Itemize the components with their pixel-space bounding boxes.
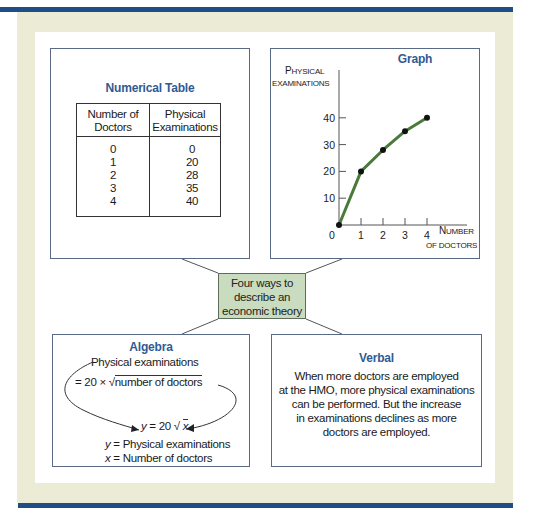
verbal-line: When more doctors are employed xyxy=(276,369,477,383)
verbal-line: can be performed. But the increase xyxy=(276,397,477,411)
algebra-arrows xyxy=(53,335,251,468)
x-tick-label: 3 xyxy=(402,229,408,241)
verbal-line: at the HMO, more physical examinations xyxy=(276,383,477,397)
data-point xyxy=(358,168,364,174)
y-ticks: 10203040 xyxy=(323,112,346,204)
arrow-right-curve xyxy=(193,385,236,428)
data-point xyxy=(402,128,408,134)
y-tick-label: 30 xyxy=(323,139,335,151)
arrow-left-head xyxy=(131,425,139,432)
x-tick-label: 1 xyxy=(358,229,364,241)
verbal-line: doctors are employed. xyxy=(276,425,477,439)
x-tick-label: 0 xyxy=(329,229,335,241)
x-ticks: 01234 xyxy=(329,218,430,241)
center-line: describe an xyxy=(219,290,305,304)
data-point xyxy=(380,147,386,153)
center-line: Four ways to xyxy=(219,276,305,290)
algebra-panel: Algebra Physical examinations = 20 × √nu… xyxy=(52,334,250,467)
verbal-title: Verbal xyxy=(272,351,481,365)
center-line: economic theory xyxy=(219,304,305,318)
center-concept-box: Four ways to describe an economic theory xyxy=(218,273,306,319)
verbal-line: in examinations declines as more xyxy=(276,411,477,425)
data-points xyxy=(336,115,430,228)
y-tick-label: 10 xyxy=(323,192,335,204)
y-tick-label: 20 xyxy=(323,165,335,177)
arrow-left-curve xyxy=(65,362,139,430)
x-tick-label: 4 xyxy=(424,229,430,241)
data-point xyxy=(424,115,430,121)
data-point xyxy=(336,222,342,228)
arrow-right-head xyxy=(186,424,194,432)
verbal-description: When more doctors are employed at the HM… xyxy=(276,369,477,439)
y-tick-label: 40 xyxy=(323,112,335,124)
series-line xyxy=(339,118,427,225)
x-tick-label: 2 xyxy=(380,229,386,241)
verbal-panel: Verbal When more doctors are employed at… xyxy=(271,334,482,467)
